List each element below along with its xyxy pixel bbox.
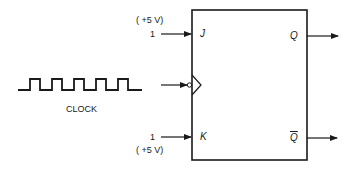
j-voltage-label: ( +5 V) <box>136 15 163 25</box>
q-pin-label: Q <box>290 30 298 41</box>
flip-flop-diagram <box>0 0 356 170</box>
k-pin-label: K <box>200 131 207 142</box>
q-bar-pin-label: Q <box>290 132 298 143</box>
j-value-label: 1 <box>150 29 155 39</box>
k-value-label: 1 <box>150 132 155 142</box>
j-pin-label: J <box>200 28 205 39</box>
clock-edge-triangle-icon <box>192 75 201 95</box>
k-voltage-label: ( +5 V) <box>136 145 163 155</box>
clock-waveform <box>18 79 142 90</box>
clock-inversion-bubble <box>187 83 191 87</box>
clock-label: CLOCK <box>66 104 97 114</box>
